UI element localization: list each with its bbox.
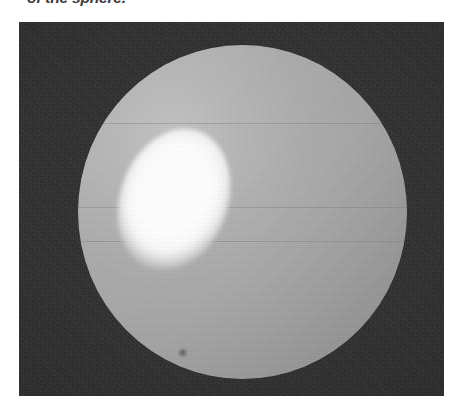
sphere-object xyxy=(78,45,407,379)
page-root: of the sphere. xyxy=(0,0,470,414)
caption-clipped-region: of the sphere. xyxy=(0,0,470,14)
figure-photo-panel xyxy=(19,22,444,396)
sphere-surface-blemish xyxy=(179,349,187,357)
caption-tail-text: of the sphere. xyxy=(27,0,126,7)
sphere-seam-line-upper xyxy=(78,123,407,124)
